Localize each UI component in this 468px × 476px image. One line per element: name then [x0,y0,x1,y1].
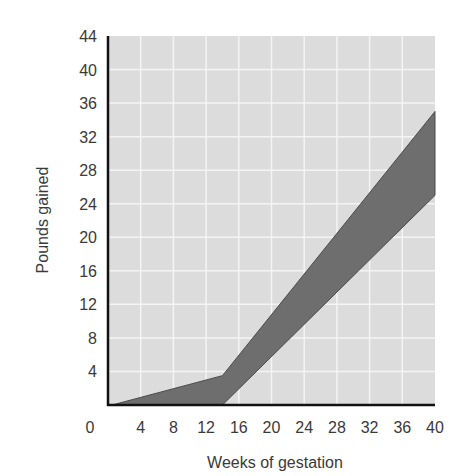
x-tick-label: 28 [328,419,346,436]
y-tick-label: 44 [79,28,97,45]
x-tick-label: 24 [295,419,313,436]
x-tick-label: 20 [263,419,281,436]
weight-gain-chart: 48121620242832364044 0481216202428323640… [0,0,468,476]
x-tick-label: 4 [136,419,145,436]
y-tick-label: 40 [79,62,97,79]
y-axis-ticks: 48121620242832364044 [79,28,97,380]
y-tick-label: 8 [88,330,97,347]
x-tick-label: 12 [197,419,215,436]
x-axis-ticks: 0481216202428323640 [86,419,444,436]
x-tick-label: 40 [426,419,444,436]
y-tick-label: 36 [79,95,97,112]
x-axis-title: Weeks of gestation [207,454,343,471]
y-tick-label: 12 [79,296,97,313]
y-tick-label: 24 [79,196,97,213]
y-tick-label: 28 [79,162,97,179]
y-tick-label: 32 [79,129,97,146]
x-tick-label: 36 [393,419,411,436]
x-tick-label: 0 [86,419,95,436]
y-tick-label: 4 [88,363,97,380]
y-tick-label: 20 [79,229,97,246]
x-tick-label: 16 [230,419,248,436]
y-axis-title: Pounds gained [34,167,51,274]
x-tick-label: 8 [169,419,178,436]
x-tick-label: 32 [361,419,379,436]
y-tick-label: 16 [79,263,97,280]
